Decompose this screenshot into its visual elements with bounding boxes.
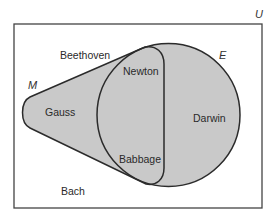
universe-label: U [255,8,263,20]
element-gauss: Gauss [45,106,75,118]
element-beethoven: Beethoven [60,49,110,61]
element-bach: Bach [61,185,85,197]
element-newton: Newton [123,65,159,77]
set-m-label: M [28,79,38,91]
set-e-label: E [219,49,227,61]
element-darwin: Darwin [193,112,226,124]
element-babbage: Babbage [119,153,161,165]
venn-diagram: U M E Beethoven Gauss Newton Babbage Dar… [0,0,278,218]
